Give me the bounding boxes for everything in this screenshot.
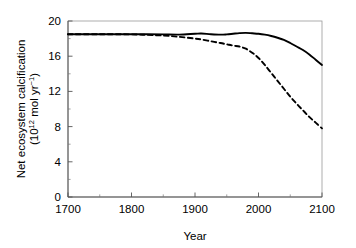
axes-frame (68, 21, 322, 197)
y-title-exponent-12: 12 (27, 120, 36, 128)
x-tick-label: 1900 (182, 203, 208, 215)
y-tick-label: 0 (55, 191, 61, 203)
y-tick-label: 12 (48, 85, 61, 97)
x-tick-label: 2100 (309, 203, 335, 215)
y-tick-label: 16 (48, 50, 61, 62)
chart-plot: 17001800190020002100 048121620 Year Net … (0, 0, 356, 248)
x-tick-label: 1800 (119, 203, 145, 215)
x-axis-title: Year (183, 230, 206, 242)
chart-figure: 17001800190020002100 048121620 Year Net … (0, 0, 356, 248)
y-title-exponent-minus1: −1 (27, 77, 36, 86)
x-tick-label: 2000 (246, 203, 272, 215)
plot-frame-box (68, 21, 322, 197)
y-axis-tick-labels: 048121620 (48, 15, 61, 203)
y-axis-title: Net ecosystem calcification (1012 mol yr… (15, 40, 40, 179)
data-series-group (68, 33, 322, 128)
x-axis-tick-labels: 17001800190020002100 (55, 203, 335, 215)
y-title-units: mol yr (28, 85, 40, 120)
y-title-paren-close: ) (28, 73, 40, 77)
series-line-dashed (68, 34, 322, 128)
x-tick-label: 1700 (55, 203, 81, 215)
series-line-solid (68, 33, 322, 65)
x-axis-ticks (68, 193, 322, 198)
y-title-paren-open: (10 (28, 128, 40, 145)
y-axis-title-line1: Net ecosystem calcification (15, 40, 27, 179)
y-axis-title-line2: (1012 mol yr−1) (27, 73, 40, 145)
y-tick-label: 20 (48, 15, 61, 27)
y-tick-label: 8 (55, 121, 61, 133)
y-tick-label: 4 (55, 156, 62, 168)
